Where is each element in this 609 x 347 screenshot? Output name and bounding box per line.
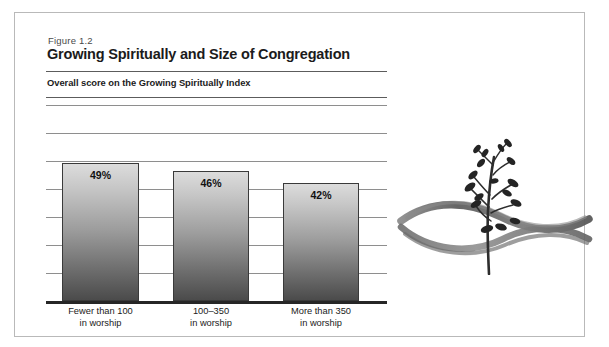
page-title: Growing Spiritually and Size of Congrega… [47, 46, 350, 62]
figure-page: Figure 1.2 Growing Spiritually and Size … [0, 0, 609, 347]
chart-subtitle: Overall score on the Growing Spiritually… [47, 77, 250, 88]
figure-number: Figure 1.2 [48, 35, 93, 46]
category-label-line: in worship [161, 318, 261, 330]
category-label: Fewer than 100in worship [50, 306, 151, 329]
category-label: 100–350in worship [161, 306, 261, 329]
category-label-line: in worship [271, 318, 371, 330]
sapling-with-brush-ribbons-icon [397, 135, 593, 275]
category-label: More than 350in worship [271, 306, 371, 329]
figure-frame: Figure 1.2 Growing Spiritually and Size … [14, 12, 585, 337]
bar: 46% [173, 171, 249, 301]
category-label-line: 100–350 [161, 306, 261, 318]
category-label-line: Fewer than 100 [50, 306, 151, 318]
gridline [46, 133, 387, 134]
subtitle-rule-top [46, 71, 387, 72]
bar-value-label: 49% [63, 169, 138, 181]
x-axis-line [46, 301, 387, 304]
bar-value-label: 42% [284, 189, 358, 201]
category-label-line: More than 350 [271, 306, 371, 318]
gridline [46, 105, 387, 106]
bar: 42% [283, 183, 359, 301]
subtitle-rule-bottom [46, 97, 387, 98]
bar-value-label: 46% [174, 177, 248, 189]
category-label-line: in worship [50, 318, 151, 330]
bar: 49% [62, 163, 139, 301]
